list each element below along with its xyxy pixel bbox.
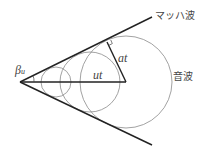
at-label: at	[118, 52, 127, 64]
mach-wave-upper-line	[20, 17, 152, 82]
right-angle-marker	[109, 40, 113, 46]
ut-label: ut	[93, 69, 102, 81]
sound-wave-label: 音波	[173, 72, 193, 82]
mach-wave-lower-line	[20, 82, 152, 145]
angle-arc	[33, 76, 34, 82]
angle-label: βu	[15, 64, 25, 76]
angle-subscript: u	[21, 67, 25, 76]
mach-wave-label: マッハ波	[155, 11, 195, 21]
